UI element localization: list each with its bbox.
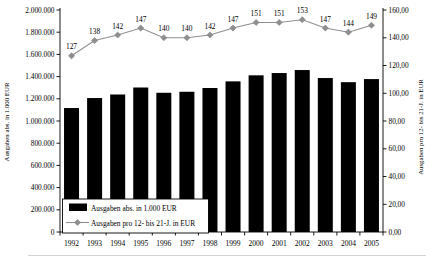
chart-canvas: 1.116.8041.206.8761.238.6951.301.8451.25… [0,0,431,259]
expenditure-combo-chart: 1.116.8041.206.8761.238.6951.301.8451.25… [0,0,431,259]
x-axis-ticks: 1992199319941995199619971998199920002001… [60,232,383,248]
line-point-marker [115,32,121,38]
x-axis-category-label: 1999 [226,239,241,248]
line-value-label: 151 [274,9,285,18]
bar-value-label: 1.377.591 [368,84,375,114]
line-series: 1271381421471401401421471511511531471441… [66,6,377,59]
line-value-label: 149 [366,12,377,21]
left-axis-tick-label: 400.000 [31,183,55,192]
bar-value-label: 1.349.776 [345,86,352,117]
x-axis-category-label: 2005 [364,239,379,248]
right-axis-tick-label: 60,00 [389,144,406,153]
bar-value-label: 1.411.459 [253,80,260,110]
bar-value-label: 1.116.804 [68,112,75,142]
axes [60,8,383,232]
left-axis-tick-label: 800.000 [31,139,55,148]
line-point-marker [207,32,213,38]
x-axis-category-label: 1993 [87,239,102,248]
left-axis-tick-label: 2.000.000 [25,6,55,15]
line-point-marker [138,25,144,31]
line-value-label: 140 [181,24,192,33]
x-axis-category-label: 1996 [156,239,171,248]
bar-value-label: 1.297.277 [207,92,214,123]
left-axis-title: Ausgaben abs. in 1.000 EUR [3,82,10,161]
x-axis-category-label: 1998 [203,239,218,248]
line-point-marker [68,53,74,59]
bar-value-label: 1.432.060 [276,77,283,108]
left-axis-tick-label: 1.800.000 [25,28,55,37]
line-value-label: 142 [112,22,123,31]
bar-value-label: 1.263.318 [183,96,190,127]
x-axis-category-label: 2001 [272,239,287,248]
bar-value-label: 1.387.142 [322,82,329,113]
x-axis-category-label: 1995 [133,239,148,248]
right-axis-tick-label: 40,00 [389,172,406,181]
bar-value-label: 1.356.972 [230,86,237,117]
x-axis-category-label: 1994 [110,239,125,248]
left-axis-tick-label: 1.600.000 [25,50,55,59]
line-point-marker [299,17,305,23]
line-value-label: 153 [297,6,308,15]
bar-value-label: 1.238.695 [114,99,121,130]
line-value-label: 147 [227,15,238,24]
bar-value-label: 1.301.845 [137,92,144,123]
right-axis-ticks: 160,00140,00120,00100,0080,0060,0040,002… [383,6,409,237]
right-axis-tick-label: 140,00 [389,33,409,42]
line-value-label: 144 [343,19,354,28]
left-axis-tick-label: 1.400.000 [25,72,55,81]
line-point-marker [276,19,282,25]
x-axis-category-label: 2004 [341,239,356,248]
line-value-label: 127 [66,42,77,51]
x-axis-category-label: 1997 [179,239,194,248]
right-axis-tick-label: 20,00 [389,200,406,209]
line-point-marker [322,25,328,31]
right-axis-tick-label: 120,00 [389,61,409,70]
left-axis-ticks: 2.000.0001.800.0001.600.0001.400.0001.20… [25,6,60,237]
right-axis-tick-label: 100,00 [389,89,409,98]
line-point-marker [368,22,374,28]
x-axis-category-label: 2003 [318,239,333,248]
left-axis-tick-label: 1.200.000 [25,94,55,103]
right-axis-tick-label: 160,00 [389,6,409,15]
legend-label: Ausgaben abs. in 1.000 EUR [91,204,177,213]
line-point-marker [161,35,167,41]
legend-swatch-bar [69,204,87,212]
line-value-label: 151 [251,9,262,18]
bar-value-label: 1.459.099 [299,74,306,105]
line-value-label: 147 [320,15,331,24]
x-axis-category-label: 2002 [295,239,310,248]
bar-value-label: 1.254.208 [160,97,167,128]
left-axis-tick-label: 600.000 [31,161,55,170]
line-point-marker [345,29,351,35]
x-axis-category-label: 1992 [64,239,79,248]
left-axis-tick-label: 200.000 [31,205,55,214]
line-point-marker [230,25,236,31]
right-axis-tick-label: 0,00 [389,228,402,237]
line-value-label: 142 [204,22,215,31]
right-axis-tick-label: 80,00 [389,117,406,126]
left-axis-tick-label: 1.000.000 [25,117,55,126]
line-value-label: 147 [135,15,146,24]
left-axis-tick-label: 0 [51,228,55,237]
legend-label: Ausgaben pro 12- bis 21-J. in EUR [91,219,195,228]
right-axis-title: Ausgaben pro 12- bis 21-J. in EUR [417,79,424,175]
line-value-label: 140 [158,24,169,33]
line-point-marker [184,35,190,41]
line-point-marker [92,37,98,43]
bar-value-label: 1.206.876 [91,102,98,133]
line-value-label: 138 [89,27,100,36]
legend: Ausgaben abs. in 1.000 EURAusgaben pro 1… [63,199,209,233]
x-axis-category-label: 2000 [249,239,264,248]
line-point-marker [253,19,259,25]
